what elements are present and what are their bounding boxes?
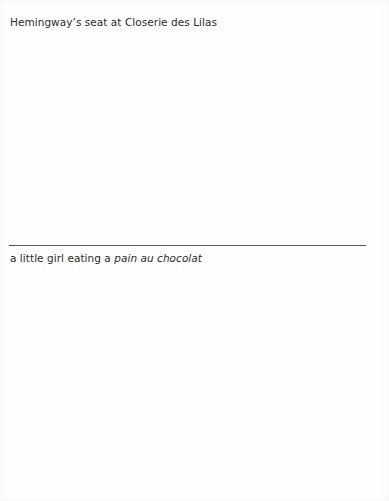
document-page: Hemingway’s seat at Closerie des Lilas a… <box>0 0 389 501</box>
caption-italic-text: pain au chocolat <box>114 252 202 264</box>
caption-text: a little girl eating a <box>10 252 114 264</box>
horizontal-divider <box>9 245 366 246</box>
caption-pain-au-chocolat: a little girl eating a pain au chocolat <box>10 252 202 264</box>
caption-closerie-des-lilas: Hemingway’s seat at Closerie des Lilas <box>10 16 217 28</box>
